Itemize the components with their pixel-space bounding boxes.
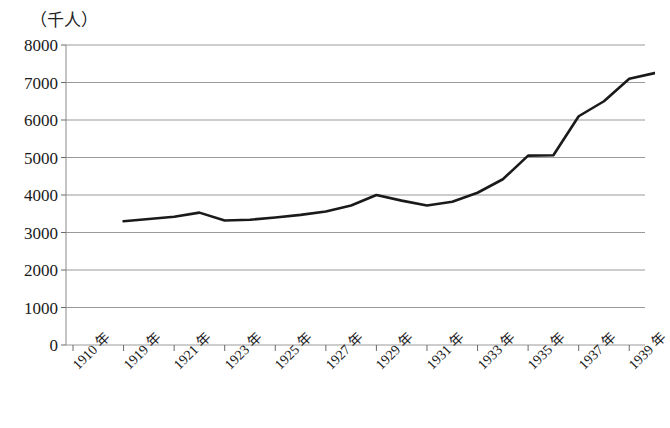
x-axis-tick-label: 1929 年 — [370, 327, 416, 373]
x-axis-tick-label: 1925 年 — [269, 327, 315, 373]
x-axis-tick-label: 1931 年 — [421, 327, 467, 373]
x-axis-tick-label: 1935 年 — [522, 327, 568, 373]
x-axis-tick-label: 1937 年 — [573, 327, 619, 373]
x-axis-tick-label: 1933 年 — [472, 327, 518, 373]
x-axis-tick-label: 1921 年 — [168, 327, 214, 373]
x-axis-tick-label: 1939 年 — [623, 327, 669, 373]
x-axis-tick-label: 1910 年 — [67, 327, 113, 373]
x-axis-tick-label: 1923 年 — [219, 327, 265, 373]
x-axis-tick-label: 1927 年 — [320, 327, 366, 373]
x-axis-tick-label: 1919 年 — [118, 327, 164, 373]
